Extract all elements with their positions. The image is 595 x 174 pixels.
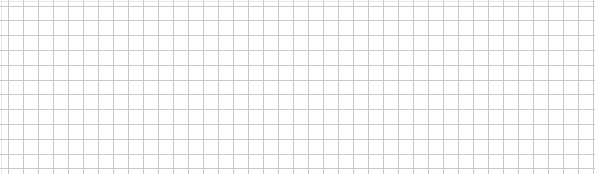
grid-vertical-line: [293, 0, 294, 174]
grid-vertical-line: [533, 0, 534, 174]
grid-vertical-line: [218, 0, 219, 174]
grid-vertical-line: [398, 0, 399, 174]
grid-horizontal-line: [0, 35, 595, 36]
grid-horizontal-line: [0, 139, 595, 140]
grid-vertical-line: [548, 0, 549, 174]
grid-vertical-line: [413, 0, 414, 174]
grid-vertical-line: [263, 0, 264, 174]
grid-vertical-line: [593, 0, 594, 174]
grid-edge-line-left: [1, 0, 2, 174]
grid-vertical-line: [488, 0, 489, 174]
grid-vertical-line: [248, 0, 249, 174]
grid-horizontal-line: [0, 109, 595, 110]
grid-vertical-line: [383, 0, 384, 174]
grid-horizontal-line: [0, 168, 595, 169]
grid-horizontal-line: [0, 80, 595, 81]
grid-vertical-line: [8, 0, 9, 174]
grid-horizontal-line: [0, 65, 595, 66]
grid-vertical-line: [338, 0, 339, 174]
grid-vertical-line: [38, 0, 39, 174]
grid-vertical-line: [113, 0, 114, 174]
grid-vertical-line: [563, 0, 564, 174]
grid-horizontal-line: [0, 154, 595, 155]
graph-paper-grid: [0, 0, 595, 174]
grid-horizontal-line: [0, 6, 595, 7]
grid-vertical-line: [233, 0, 234, 174]
grid-vertical-line: [143, 0, 144, 174]
grid-vertical-line: [473, 0, 474, 174]
grid-vertical-line: [503, 0, 504, 174]
grid-horizontal-line: [0, 124, 595, 125]
grid-vertical-line: [83, 0, 84, 174]
grid-vertical-line: [128, 0, 129, 174]
grid-horizontal-line: [0, 20, 595, 21]
grid-vertical-line: [353, 0, 354, 174]
grid-vertical-line: [323, 0, 324, 174]
grid-vertical-line: [368, 0, 369, 174]
grid-vertical-line: [443, 0, 444, 174]
grid-vertical-line: [173, 0, 174, 174]
grid-horizontal-line: [0, 50, 595, 51]
grid-vertical-line: [458, 0, 459, 174]
grid-vertical-line: [23, 0, 24, 174]
grid-horizontal-line: [0, 94, 595, 95]
grid-vertical-line: [68, 0, 69, 174]
grid-vertical-line: [308, 0, 309, 174]
grid-vertical-line: [98, 0, 99, 174]
grid-vertical-line: [53, 0, 54, 174]
grid-edge-line-top: [0, 1, 595, 2]
grid-vertical-line: [188, 0, 189, 174]
grid-vertical-line: [203, 0, 204, 174]
grid-vertical-line: [578, 0, 579, 174]
grid-vertical-line: [158, 0, 159, 174]
grid-vertical-line: [428, 0, 429, 174]
grid-vertical-line: [278, 0, 279, 174]
grid-vertical-line: [518, 0, 519, 174]
